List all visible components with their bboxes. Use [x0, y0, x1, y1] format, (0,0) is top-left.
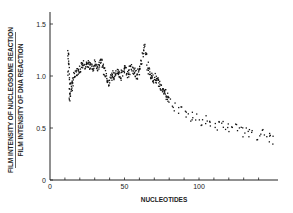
data-point — [170, 98, 171, 99]
data-point — [210, 125, 211, 126]
data-point — [99, 62, 100, 63]
data-point — [72, 85, 73, 86]
data-point — [251, 132, 252, 133]
data-point — [144, 46, 145, 47]
data-point — [158, 80, 159, 81]
data-point — [128, 72, 129, 73]
data-point — [141, 60, 142, 61]
data-point — [152, 77, 153, 78]
data-point — [80, 68, 81, 69]
data-point — [113, 79, 114, 80]
data-point — [163, 88, 164, 89]
data-point — [76, 75, 77, 76]
data-point — [199, 119, 200, 120]
data-point — [114, 72, 115, 73]
data-point — [97, 64, 98, 65]
data-point — [161, 84, 162, 85]
y-tick-label: 0.5 — [36, 125, 46, 132]
data-point — [174, 110, 175, 111]
data-point — [100, 59, 101, 60]
data-point — [191, 119, 192, 120]
data-point — [110, 74, 111, 75]
data-point — [91, 64, 92, 65]
data-point — [148, 70, 149, 71]
data-point — [69, 77, 70, 78]
data-point — [85, 68, 86, 69]
y-axis-title: FILM INTENSITY OF NUCLEOSOME REACTION FI… — [7, 27, 24, 173]
data-point — [217, 129, 218, 130]
data-point — [98, 68, 99, 69]
data-point — [106, 75, 107, 76]
data-point — [97, 70, 98, 71]
data-point — [146, 69, 147, 70]
data-point — [128, 76, 129, 77]
data-point — [102, 65, 103, 66]
data-point — [82, 63, 83, 64]
data-point — [181, 106, 182, 107]
data-point — [69, 88, 70, 89]
data-point — [126, 67, 127, 68]
data-point — [76, 70, 77, 71]
data-point — [112, 75, 113, 76]
data-point — [90, 68, 91, 69]
data-point — [83, 60, 84, 61]
data-point — [262, 130, 263, 131]
data-point — [138, 70, 139, 71]
data-point — [106, 73, 107, 74]
data-point — [127, 77, 128, 78]
y-tick-label: 1.5 — [36, 21, 46, 28]
data-point — [174, 102, 175, 103]
data-point — [109, 80, 110, 81]
data-points — [67, 44, 274, 145]
data-point — [89, 64, 90, 65]
data-point — [207, 120, 208, 121]
data-point — [109, 82, 110, 83]
data-point — [155, 73, 156, 74]
data-point — [121, 71, 122, 72]
data-point — [242, 136, 243, 137]
data-point — [272, 136, 273, 137]
data-point — [134, 72, 135, 73]
data-point — [124, 70, 125, 71]
data-point — [143, 53, 144, 54]
data-point — [158, 77, 159, 78]
data-point — [155, 82, 156, 83]
data-point — [124, 72, 125, 73]
data-point — [67, 50, 68, 51]
data-point — [124, 68, 125, 69]
data-point — [190, 120, 191, 121]
data-point — [86, 63, 87, 64]
data-point — [167, 99, 168, 100]
data-point — [69, 94, 70, 95]
data-point — [70, 91, 71, 92]
data-point — [118, 72, 119, 73]
data-point — [221, 123, 222, 124]
data-point — [219, 122, 220, 123]
data-point — [138, 71, 139, 72]
data-point — [127, 71, 128, 72]
data-point — [93, 66, 94, 67]
data-point — [95, 65, 96, 66]
data-point — [186, 112, 187, 113]
data-point — [111, 80, 112, 81]
data-point — [244, 132, 245, 133]
data-point — [146, 53, 147, 54]
data-point — [72, 82, 73, 83]
data-point — [112, 74, 113, 75]
data-point — [130, 65, 131, 66]
data-point — [68, 63, 69, 64]
data-point — [71, 89, 72, 90]
data-point — [71, 86, 72, 87]
data-point — [260, 134, 261, 135]
data-point — [201, 124, 202, 125]
data-point — [153, 80, 154, 81]
data-point — [227, 127, 228, 128]
data-point — [126, 73, 127, 74]
data-point — [84, 64, 85, 65]
data-point — [79, 66, 80, 67]
data-point — [165, 93, 166, 94]
data-point — [257, 139, 258, 140]
data-point — [126, 74, 127, 75]
data-point — [165, 89, 166, 90]
data-point — [86, 62, 87, 63]
